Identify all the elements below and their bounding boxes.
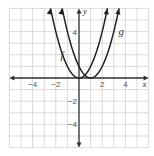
x-tick-label: 4: [123, 80, 128, 89]
curve-label-g: g: [118, 25, 124, 37]
x-tick-label: 2: [100, 80, 105, 89]
y-tick-label: −2: [68, 97, 78, 106]
y-tick-label: −4: [68, 120, 78, 129]
y-tick-label: 4: [73, 28, 78, 37]
y-axis-label: y: [82, 6, 87, 16]
coordinate-graph: −4−2244−2−4 x y f g: [0, 0, 154, 156]
x-axis-label: x: [142, 79, 147, 89]
x-tick-label: −2: [51, 80, 61, 89]
x-tick-label: −4: [28, 80, 38, 89]
